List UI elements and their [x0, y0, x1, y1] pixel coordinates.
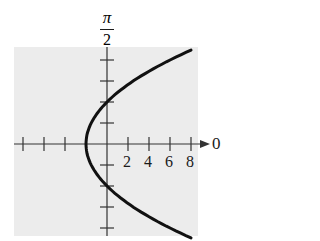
axis-arrow-icon: [200, 140, 210, 148]
pi-over-2-label: π 2: [98, 8, 116, 49]
x-tick-label-2: 2: [123, 154, 131, 170]
fraction-bar: [100, 29, 114, 30]
x-tick-label-6: 6: [165, 154, 173, 170]
x-tick-label-8: 8: [186, 154, 194, 170]
pi-numerator: π: [98, 8, 116, 28]
x-tick-label-4: 4: [144, 154, 152, 170]
polar-axis-zero-label: 0: [212, 135, 221, 152]
pi-denominator: 2: [98, 31, 116, 49]
